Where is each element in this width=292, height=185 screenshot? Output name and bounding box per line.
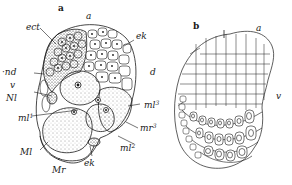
label-ect: ect — [26, 23, 40, 32]
label-d: d — [150, 68, 156, 77]
label-Mr: Mr — [52, 166, 66, 175]
label-b-v: v — [276, 92, 281, 101]
label-ek-top: ek — [136, 32, 147, 41]
label-a-animal-pole: a — [86, 12, 91, 21]
panel-b-drawing — [175, 30, 274, 168]
label-mr3-text: mr — [140, 123, 153, 133]
label-ml3-text: ml — [144, 100, 155, 110]
label-ml1-sup: 1 — [29, 112, 33, 119]
embryo-figure: a a ect ek ·nd v Nl ml1 Ml Mr ek ml2 mr3… — [0, 0, 292, 185]
panel-a-title: a — [58, 4, 64, 13]
label-ml3-sup: 3 — [155, 99, 159, 106]
label-v: v — [10, 81, 15, 90]
label-mr3: mr3 — [140, 123, 157, 133]
label-ek-bottom: ek — [84, 159, 95, 168]
label-ml2-text: ml — [120, 143, 131, 153]
label-Nl: Nl — [6, 94, 17, 103]
label-ml3: ml3 — [144, 100, 159, 110]
label-b-a: a — [256, 24, 261, 33]
label-ml2: ml2 — [120, 143, 135, 153]
label-mr3-sup: 3 — [153, 122, 157, 129]
label-end: ·nd — [2, 68, 16, 77]
label-ml1: ml1 — [18, 113, 33, 123]
label-ml2-sup: 2 — [131, 142, 135, 149]
label-ml1-text: ml — [18, 113, 29, 123]
panel-b-title: b — [193, 22, 199, 31]
figure-drawing — [0, 0, 292, 185]
label-Ml: Ml — [20, 148, 32, 157]
